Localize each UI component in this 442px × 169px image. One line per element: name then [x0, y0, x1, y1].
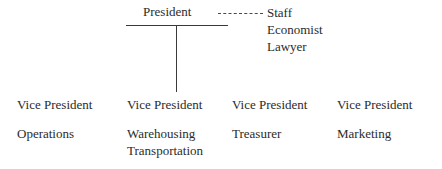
vp-title-warehousing: Vice President — [127, 97, 203, 112]
staff-line-staff: Staff — [267, 4, 323, 21]
vp-title-treasurer: Vice President — [232, 97, 307, 112]
vp-title-operations: Vice President — [17, 97, 92, 112]
vp-column-marketing: Vice President Marketing — [337, 97, 412, 142]
president-horizontal-rule — [126, 25, 228, 26]
org-chart: President Staff Economist Lawyer Vice Pr… — [0, 0, 442, 169]
president-vertical-connector — [176, 26, 177, 92]
president-title: President — [143, 4, 191, 19]
vp-function-warehousing: Warehousing — [127, 125, 203, 142]
vp-functions-warehousing: Warehousing Transportation — [127, 125, 203, 159]
staff-block: Staff Economist Lawyer — [267, 4, 323, 55]
vp-title-marketing: Vice President — [337, 97, 412, 112]
staff-line-lawyer: Lawyer — [267, 38, 323, 55]
vp-functions-treasurer: Treasurer — [232, 125, 307, 142]
vp-function-operations: Operations — [17, 125, 92, 142]
vp-column-warehousing: Vice President Warehousing Transportatio… — [127, 97, 203, 159]
staff-dashed-connector — [218, 13, 263, 14]
vp-function-treasurer: Treasurer — [232, 125, 307, 142]
vp-functions-operations: Operations — [17, 125, 92, 142]
vp-function-transportation: Transportation — [127, 142, 203, 159]
vp-column-treasurer: Vice President Treasurer — [232, 97, 307, 142]
staff-line-economist: Economist — [267, 21, 323, 38]
vp-function-marketing: Marketing — [337, 125, 412, 142]
vp-column-operations: Vice President Operations — [17, 97, 92, 142]
vp-functions-marketing: Marketing — [337, 125, 412, 142]
